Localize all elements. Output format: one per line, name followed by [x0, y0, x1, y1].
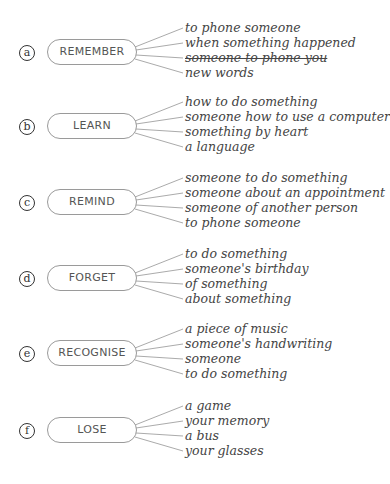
- option-text: to phone someone: [185, 20, 301, 35]
- verb-group-c: c REMIND someone to do something someone…: [0, 164, 382, 240]
- option-text: to do something: [185, 246, 287, 261]
- option-text: a piece of music: [185, 321, 288, 336]
- option-text: your memory: [185, 413, 269, 428]
- option-text: someone about an appointment: [185, 185, 385, 200]
- option-text: someone's birthday: [185, 261, 309, 276]
- option-text: of something: [185, 276, 267, 291]
- verb-box: REMEMBER: [47, 39, 137, 65]
- option-text: something by heart: [185, 124, 308, 139]
- item-letter: f: [19, 423, 35, 439]
- option-text: to phone someone: [185, 215, 301, 230]
- verb-box: LEARN: [47, 113, 137, 139]
- option-text: new words: [185, 65, 254, 80]
- verb-group-d: d FORGET to do something someone's birth…: [0, 240, 382, 316]
- option-text: someone's handwriting: [185, 336, 332, 351]
- option-text: about something: [185, 291, 291, 306]
- option-text: someone to do something: [185, 170, 347, 185]
- verb-box: FORGET: [47, 265, 137, 291]
- verb-box: REMIND: [47, 189, 137, 215]
- option-text: a bus: [185, 428, 219, 443]
- item-letter: c: [19, 195, 35, 211]
- option-text: how to do something: [185, 94, 318, 109]
- option-text: someone: [185, 351, 241, 366]
- option-text: a game: [185, 398, 231, 413]
- verb-group-a: a REMEMBER to phone someone when somethi…: [0, 14, 382, 90]
- option-text: when something happened: [185, 35, 356, 50]
- option-text: someone of another person: [185, 200, 358, 215]
- item-letter: a: [19, 45, 35, 61]
- verb-box: LOSE: [47, 417, 137, 443]
- option-text: someone how to use a computer: [185, 109, 390, 124]
- option-text: a language: [185, 139, 255, 154]
- verb-group-b: b LEARN how to do something someone how …: [0, 88, 382, 164]
- verb-group-f: f LOSE a game your memory a bus your gla…: [0, 392, 382, 468]
- option-text: your glasses: [185, 443, 264, 458]
- verb-box: RECOGNISE: [47, 340, 137, 366]
- option-text-crossed-out: someone to phone you: [185, 50, 327, 65]
- item-letter: b: [19, 119, 35, 135]
- item-letter: d: [19, 271, 35, 287]
- item-letter: e: [19, 346, 35, 362]
- verb-group-e: e RECOGNISE a piece of music someone's h…: [0, 315, 382, 391]
- option-text: to do something: [185, 366, 287, 381]
